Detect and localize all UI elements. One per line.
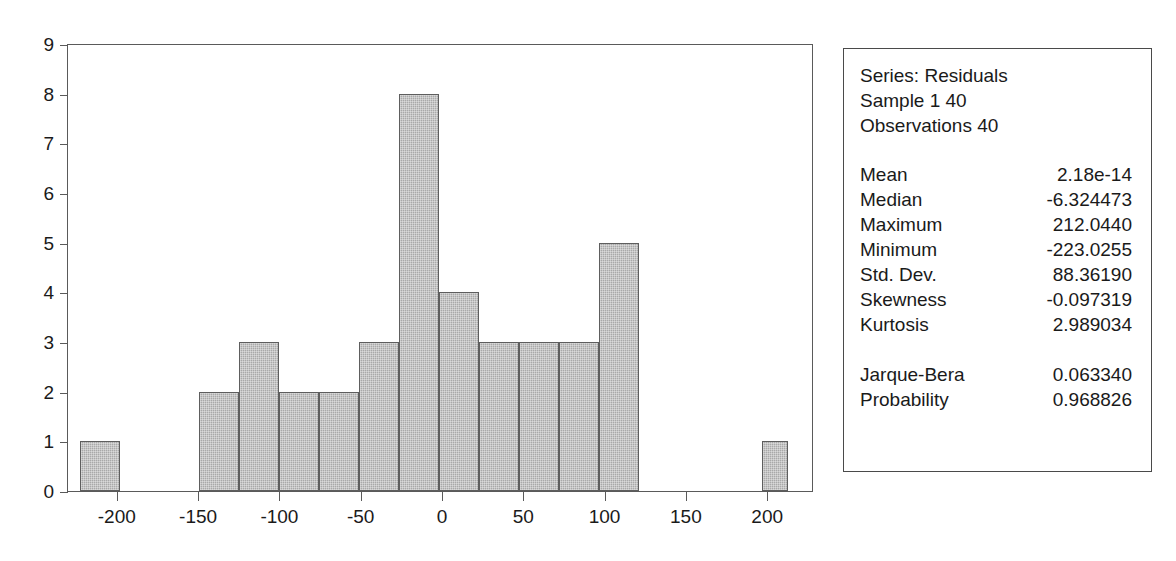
y-axis-tick-label: 2 (14, 383, 54, 402)
x-axis-tick-label: 100 (565, 506, 645, 528)
x-axis-tick (442, 492, 443, 501)
statistics-header: Series: Residuals Sample 1 40 Observatio… (860, 63, 1151, 138)
statistic-value: 2.18e-14 (1057, 162, 1132, 187)
histogram-bar (319, 392, 359, 491)
histogram-bars (68, 45, 812, 491)
statistic-label: Maximum (860, 212, 942, 237)
histogram-bar (439, 292, 479, 491)
x-axis-tick (605, 492, 606, 501)
x-axis-tick (767, 492, 768, 501)
statistic-value: -0.097319 (1046, 287, 1132, 312)
statistic-value: 212.0440 (1053, 212, 1132, 237)
x-axis-tick (198, 492, 199, 501)
histogram-bar (599, 243, 639, 491)
observations-line: Observations 40 (860, 113, 1151, 138)
histogram-bar (199, 392, 239, 491)
x-axis-tick-label: 200 (727, 506, 807, 528)
histogram-bar (479, 342, 519, 491)
statistic-label: Median (860, 187, 922, 212)
statistic-label: Skewness (860, 287, 947, 312)
statistic-label: Std. Dev. (860, 262, 937, 287)
y-axis-tick-label: 9 (14, 35, 54, 54)
histogram-bar (762, 441, 788, 491)
histogram-bar (279, 392, 319, 491)
statistic-row: Skewness-0.097319 (860, 287, 1132, 312)
x-axis-tick (117, 492, 118, 501)
statistic-row: Jarque-Bera0.063340 (860, 362, 1132, 387)
statistic-value: -223.0255 (1046, 237, 1132, 262)
x-axis-tick (523, 492, 524, 501)
y-axis-tick-label: 1 (14, 432, 54, 451)
x-axis-tick-label: -50 (321, 506, 401, 528)
sample-range-line: Sample 1 40 (860, 88, 1151, 113)
test-statistic-value: 0.968826 (1053, 387, 1132, 412)
y-axis-tick-label: 6 (14, 184, 54, 203)
y-axis-tick-label: 0 (14, 482, 54, 501)
histogram-figure: 0123456789 -200-150-100-50050100150200 (0, 0, 830, 561)
x-axis-tick-label: 150 (646, 506, 726, 528)
x-axis-tick (279, 492, 280, 501)
y-axis-tick (60, 492, 68, 493)
statistic-row: Kurtosis2.989034 (860, 312, 1132, 337)
x-axis-tick-label: -200 (77, 506, 157, 528)
statistic-label: Minimum (860, 237, 937, 262)
x-axis-tick-label: -100 (239, 506, 319, 528)
statistics-panel: Series: Residuals Sample 1 40 Observatio… (843, 48, 1152, 472)
statistics-table: Mean2.18e-14Median-6.324473Maximum212.04… (860, 162, 1151, 412)
x-axis-tick-label: -150 (158, 506, 238, 528)
x-axis-tick (686, 492, 687, 501)
x-axis-tick-label: 50 (483, 506, 563, 528)
statistic-value: -6.324473 (1046, 187, 1132, 212)
y-axis-tick-label: 3 (14, 333, 54, 352)
statistic-row: Probability0.968826 (860, 387, 1132, 412)
statistic-row: Mean2.18e-14 (860, 162, 1132, 187)
statistic-value: 88.36190 (1053, 262, 1132, 287)
histogram-bar (359, 342, 399, 491)
plot-area (67, 44, 813, 492)
statistic-label: Mean (860, 162, 908, 187)
histogram-bar (519, 342, 559, 491)
x-axis-tick-label: 0 (402, 506, 482, 528)
histogram-bar (399, 94, 439, 491)
test-statistic-label: Probability (860, 387, 949, 412)
y-axis-tick-label: 8 (14, 85, 54, 104)
statistic-row: Std. Dev.88.36190 (860, 262, 1132, 287)
statistic-row: Maximum212.0440 (860, 212, 1132, 237)
statistic-label: Kurtosis (860, 312, 929, 337)
y-axis-tick-label: 4 (14, 283, 54, 302)
series-name-line: Series: Residuals (860, 63, 1151, 88)
statistic-row: Median-6.324473 (860, 187, 1132, 212)
histogram-bar (559, 342, 599, 491)
statistics-spacer (860, 337, 1132, 362)
x-axis-tick (361, 492, 362, 501)
statistic-row: Minimum-223.0255 (860, 237, 1132, 262)
histogram-bar (80, 441, 120, 491)
statistic-value: 2.989034 (1053, 312, 1132, 337)
y-axis-tick-label: 5 (14, 234, 54, 253)
histogram-bar (239, 342, 279, 491)
test-statistic-label: Jarque-Bera (860, 362, 965, 387)
y-axis-tick-label: 7 (14, 134, 54, 153)
y-axis-label-group: 0123456789 (0, 0, 54, 561)
test-statistic-value: 0.063340 (1053, 362, 1132, 387)
